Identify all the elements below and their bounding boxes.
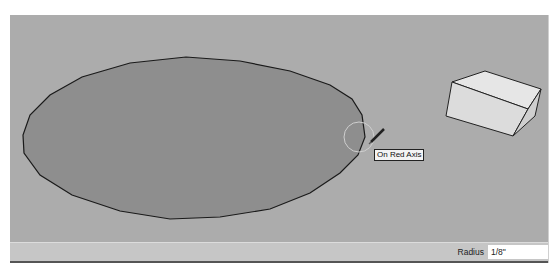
box-object[interactable] — [446, 71, 541, 136]
status-bar: Radius 1/8" — [10, 242, 548, 263]
modeling-window: On Red Axis Radius 1/8" — [10, 15, 549, 263]
measurement-label: Radius — [458, 247, 484, 257]
circle-face[interactable] — [23, 57, 365, 219]
drawing-viewport[interactable]: On Red Axis — [10, 15, 548, 242]
pencil-icon — [369, 129, 384, 144]
scene-canvas[interactable] — [10, 15, 548, 242]
inference-tooltip: On Red Axis — [374, 149, 424, 161]
measurement-input[interactable]: 1/8" — [488, 245, 548, 259]
